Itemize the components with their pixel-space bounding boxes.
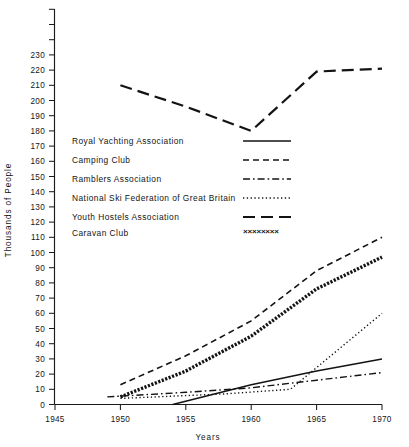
y-tick-label: 80 — [35, 279, 45, 288]
y-tick-label: 60 — [35, 309, 45, 318]
y-tick-label: 190 — [30, 112, 45, 121]
y-tick-label: 150 — [30, 173, 45, 182]
legend-label-royal-yachting-association: Royal Yachting Association — [72, 136, 184, 146]
y-tick-label: 90 — [35, 264, 45, 273]
y-tick-label: 0 — [40, 401, 45, 410]
x-tick-labels: 1945 1950 1955 1960 1965 1970 — [45, 415, 392, 424]
y-tick-label: 180 — [30, 127, 45, 136]
series-camping-club — [120, 237, 382, 384]
series-royal-yachting-association — [173, 359, 382, 405]
x-tick-marks — [55, 405, 382, 411]
legend-label-ramblers-association: Ramblers Association — [72, 174, 162, 184]
x-tick-label: 1965 — [307, 415, 327, 424]
legend: Royal Yachting Association Camping Club … — [72, 136, 291, 238]
x-axis-title: Years — [195, 433, 220, 442]
series-youth-hostels-association — [120, 69, 382, 131]
series-group — [107, 69, 382, 405]
y-tick-label: 50 — [35, 325, 45, 334]
axis-group: 0 10 20 40 30 50 60 70 80 90 100 110 120… — [4, 9, 392, 442]
y-tick-label: 120 — [30, 218, 45, 227]
line-chart: 0 10 20 40 30 50 60 70 80 90 100 110 120… — [0, 0, 409, 447]
x-tick-label: 1950 — [111, 415, 131, 424]
y-tick-label: 100 — [30, 249, 45, 258]
y-axis-title: Thousands of People — [4, 163, 13, 257]
y-tick-marks — [49, 9, 55, 404]
x-tick-label: 1945 — [45, 415, 65, 424]
x-tick-label: 1970 — [372, 415, 392, 424]
x-tick-label: 1955 — [176, 415, 196, 424]
y-tick-label: 210 — [30, 81, 45, 90]
y-tick-label: 70 — [35, 294, 45, 303]
chart-canvas: 0 10 20 40 30 50 60 70 80 90 100 110 120… — [0, 0, 409, 447]
y-tick-label: 140 — [30, 188, 45, 197]
y-tick-label: 20 — [35, 370, 45, 379]
y-tick-label: 220 — [30, 66, 45, 75]
y-tick-label: 170 — [30, 142, 45, 151]
legend-label-national-ski-federation-of-great-britain: National Ski Federation of Great Britain — [72, 193, 236, 203]
y-tick-label: 160 — [30, 157, 45, 166]
y-tick-label: 110 — [31, 233, 45, 242]
legend-label-youth-hostels-association: Youth Hostels Association — [72, 212, 179, 222]
legend-label-camping-club: Camping Club — [72, 155, 130, 165]
legend-swatch-xxxxxxxx: ×××××××× — [243, 227, 279, 236]
x-tick-label: 1960 — [241, 415, 261, 424]
y-tick-label: 200 — [30, 97, 45, 106]
series-national-ski-federation-of-great-britain — [120, 313, 382, 398]
y-tick-labels: 0 10 20 40 30 50 60 70 80 90 100 110 120… — [30, 51, 45, 410]
y-tick-label: 40 — [35, 340, 45, 349]
y-tick-label: 30 — [35, 355, 45, 364]
y-tick-label: 130 — [30, 203, 45, 212]
y-tick-label: 10 — [35, 385, 45, 394]
series-caravan-club — [120, 257, 382, 397]
legend-label-caravan-club: Caravan Club — [72, 228, 129, 238]
y-tick-label: 230 — [30, 51, 45, 60]
